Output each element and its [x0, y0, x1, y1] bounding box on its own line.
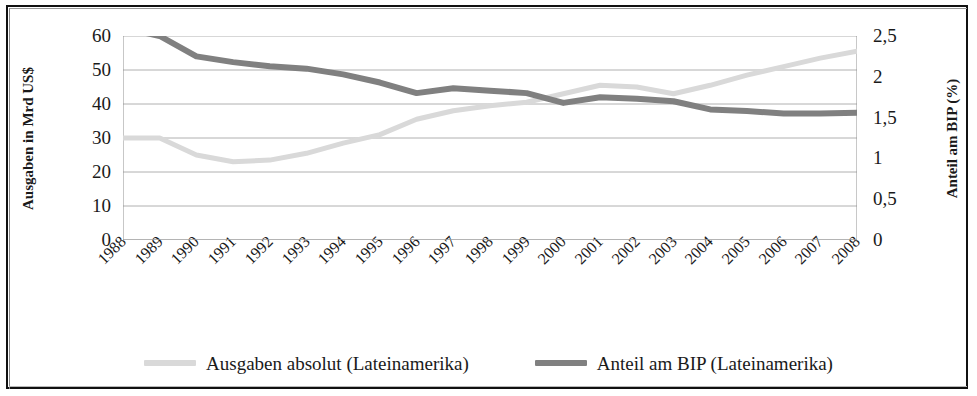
- y-axis-title-left: Ausgaben in Mrd US$: [20, 39, 37, 239]
- y-tick-label-right: 0,5: [873, 189, 919, 208]
- y-tick-label-left: 40: [65, 94, 111, 113]
- plot-area: [123, 36, 857, 240]
- y-tick-label-right: 1,5: [873, 108, 919, 127]
- y-tick-label-right: 2: [873, 67, 919, 86]
- legend-divider: [9, 386, 967, 387]
- chart-plot-svg: [123, 36, 857, 240]
- gridlines: [123, 36, 857, 240]
- legend-label: Anteil am BIP (Lateinamerika): [597, 354, 833, 373]
- y-tick-label-left: 20: [65, 162, 111, 181]
- legend-color-swatch: [144, 360, 196, 366]
- legend-item: Ausgaben absolut (Lateinamerika): [144, 354, 469, 373]
- y-tick-label-left: 50: [65, 60, 111, 79]
- legend-color-swatch: [535, 360, 587, 366]
- y-tick-label-left: 60: [65, 26, 111, 45]
- chart-legend: Ausgaben absolut (Lateinamerika)Anteil a…: [0, 348, 977, 378]
- legend-label: Ausgaben absolut (Lateinamerika): [206, 354, 469, 373]
- y-tick-label-right: 1: [873, 148, 919, 167]
- y-tick-label-right: 0: [873, 230, 919, 249]
- y-tick-label-left: 10: [65, 196, 111, 215]
- y-tick-label-left: 30: [65, 128, 111, 147]
- chart-figure: Ausgaben in Mrd US$ Anteil am BIP (%) 01…: [0, 0, 977, 396]
- series-line: [123, 51, 857, 162]
- y-tick-label-right: 2,5: [873, 26, 919, 45]
- legend-item: Anteil am BIP (Lateinamerika): [535, 354, 833, 373]
- y-axis-title-right: Anteil am BIP (%): [944, 39, 961, 239]
- series-lines: [123, 36, 857, 162]
